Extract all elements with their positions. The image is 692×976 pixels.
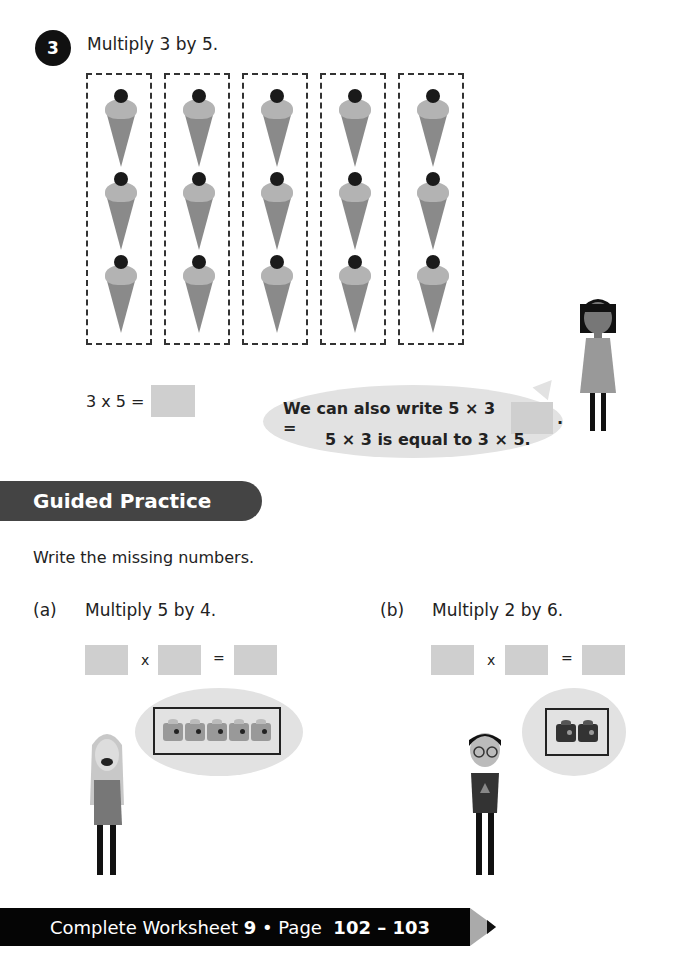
times-sign: x <box>141 652 149 668</box>
ice-cream-cone-icon <box>181 89 217 169</box>
ice-cream-group <box>164 73 230 345</box>
equals-sign-b: = <box>561 650 573 666</box>
ice-cream-cone-icon <box>259 89 295 169</box>
lego-brick-icon <box>207 723 227 741</box>
boy-character-b-illustration <box>455 728 515 888</box>
ice-cream-cone-icon <box>415 172 451 252</box>
question-prompt: Multiply 3 by 5. <box>87 34 218 54</box>
section-title: Guided Practice <box>33 489 211 513</box>
ice-cream-group <box>320 73 386 345</box>
ice-cream-cone-icon <box>337 255 373 335</box>
part-b-blank-2[interactable] <box>505 645 548 675</box>
worksheet-banner: Complete Worksheet 9 • Page 102 – 103 <box>0 908 470 946</box>
ice-cream-cone-icon <box>415 255 451 335</box>
speech-bubble: We can also write 5 × 3 = . 5 × 3 is equ… <box>263 385 563 458</box>
instruction: Write the missing numbers. <box>33 548 254 567</box>
ice-cream-cone-icon <box>337 172 373 252</box>
ice-cream-group <box>242 73 308 345</box>
equals-sign: = <box>213 650 225 666</box>
lego-brick-icon <box>185 723 205 741</box>
part-b-prompt: Multiply 2 by 6. <box>432 600 563 620</box>
ice-cream-cone-icon <box>259 255 295 335</box>
question-number-badge: 3 <box>35 30 71 66</box>
part-b-blank-3[interactable] <box>582 645 625 675</box>
ice-cream-cone-icon <box>415 89 451 169</box>
ice-cream-cone-icon <box>259 172 295 252</box>
ice-cream-group <box>86 73 152 345</box>
part-a-blank-1[interactable] <box>85 645 128 675</box>
part-a-prompt: Multiply 5 by 4. <box>85 600 216 620</box>
part-a-label: (a) <box>33 600 57 620</box>
lego-brick-icon <box>556 724 576 742</box>
girl-character-illustration <box>570 288 626 438</box>
page-range: 102 – 103 <box>333 917 430 938</box>
speech-bubble-tail <box>533 374 560 401</box>
speech-line-2: 5 × 3 is equal to 3 × 5. <box>325 430 531 449</box>
ice-cream-group <box>398 73 464 345</box>
ice-cream-cone-icon <box>337 89 373 169</box>
ice-cream-cone-icon <box>103 172 139 252</box>
question-number: 3 <box>47 38 59 58</box>
ice-cream-cone-icon <box>103 255 139 335</box>
lego-brick-icon <box>163 723 183 741</box>
part-b-label: (b) <box>380 600 404 620</box>
speech-period: . <box>557 409 563 428</box>
lego-brick-icon <box>229 723 249 741</box>
section-banner: Guided Practice <box>0 481 262 521</box>
part-b-blank-1[interactable] <box>431 645 474 675</box>
lego-brick-icon <box>251 723 271 741</box>
times-sign-b: x <box>487 652 495 668</box>
ice-cream-cone-icon <box>181 172 217 252</box>
footer-prefix: Complete Worksheet <box>50 917 238 938</box>
brick-frame-a <box>153 707 281 755</box>
brick-frame-b <box>545 708 609 756</box>
equation-text: 3 x 5 = <box>86 392 145 411</box>
answer-box[interactable] <box>151 385 195 417</box>
equation-3x5: 3 x 5 = <box>86 385 195 417</box>
pencil-lead-icon <box>487 920 496 934</box>
part-a-blank-2[interactable] <box>158 645 201 675</box>
girl-character-a-illustration <box>82 725 142 885</box>
footer-sep: • Page <box>256 917 327 938</box>
ice-cream-cone-icon <box>181 255 217 335</box>
worksheet-number: 9 <box>244 917 257 938</box>
lego-brick-icon <box>578 724 598 742</box>
part-a-blank-3[interactable] <box>234 645 277 675</box>
ice-cream-cone-icon <box>103 89 139 169</box>
